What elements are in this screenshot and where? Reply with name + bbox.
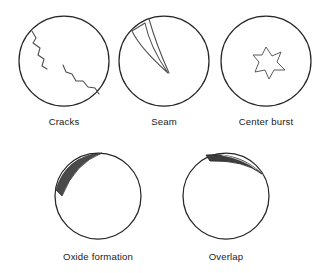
overlap-label: Overlap — [209, 251, 244, 262]
oxide-section-outline — [55, 153, 141, 239]
cracks-section-outline — [19, 16, 109, 106]
cracks-label: Cracks — [49, 116, 80, 127]
oxide-formation-label: Oxide formation — [63, 251, 133, 262]
defects-figure: Cracks Seam Center burst Oxide formation — [0, 0, 325, 273]
defect-seam: Seam — [119, 16, 209, 127]
defect-overlap: Overlap — [183, 153, 269, 262]
figure-canvas: Cracks Seam Center burst Oxide formation — [0, 0, 325, 273]
overlap-section-outline — [183, 153, 269, 239]
center-burst-label: Center burst — [239, 116, 294, 127]
defect-center-burst: Center burst — [221, 16, 311, 127]
defect-cracks: Cracks — [19, 16, 109, 127]
defect-oxide-formation: Oxide formation — [55, 153, 141, 262]
seam-label: Seam — [151, 116, 177, 127]
